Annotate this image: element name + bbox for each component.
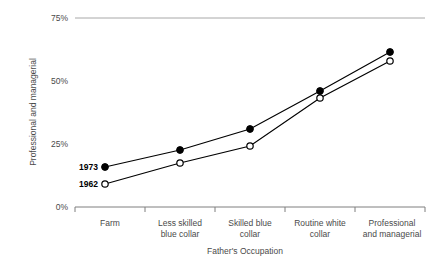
- category-label-farm: Farm: [100, 218, 120, 228]
- ytick-label-50: 50%: [51, 76, 68, 86]
- line-chart: 75% 50% 25% 0% Professional and manageri…: [0, 0, 446, 271]
- data-point-1962: [177, 160, 183, 166]
- category-label-routine-white-collar: Routine white: [294, 218, 346, 228]
- category-label-routine-white-collar-line2: collar: [310, 229, 330, 239]
- series-line-1973: [105, 52, 390, 167]
- data-point-1962: [247, 143, 253, 149]
- data-point-1962: [387, 58, 393, 64]
- category-label-less-skilled-blue-collar-line2: blue collar: [161, 229, 200, 239]
- x-axis-title: Father's Occupation: [207, 246, 283, 256]
- category-label-professional-and-managerial: Professional: [369, 218, 416, 228]
- series-label-1973: 1973: [79, 162, 98, 172]
- category-label-skilled-blue-collar: Skilled blue: [228, 218, 272, 228]
- ytick-label-75: 75%: [51, 13, 68, 23]
- ytick-label-25: 25%: [51, 139, 68, 149]
- data-point-1973: [387, 49, 394, 56]
- data-point-1973: [102, 164, 109, 171]
- data-point-1962: [102, 181, 108, 187]
- data-point-1973: [177, 147, 184, 154]
- data-point-1973: [247, 126, 254, 133]
- category-label-professional-and-managerial-line2: and managerial: [363, 229, 422, 239]
- series-line-1962: [105, 61, 390, 184]
- data-point-1962: [317, 95, 323, 101]
- y-axis-title: Professional and managerial: [28, 58, 38, 166]
- chart-container: 75% 50% 25% 0% Professional and manageri…: [0, 0, 446, 271]
- data-point-1973: [317, 88, 324, 95]
- category-label-less-skilled-blue-collar: Less skilled: [158, 218, 202, 228]
- series-label-1962: 1962: [79, 179, 98, 189]
- ytick-label-0: 0%: [56, 202, 69, 212]
- category-label-skilled-blue-collar-line2: collar: [240, 229, 260, 239]
